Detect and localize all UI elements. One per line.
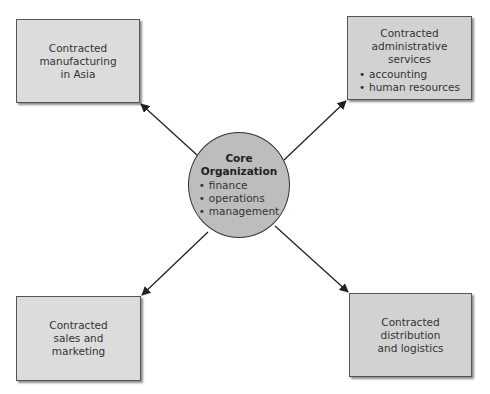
node-manufacturing: Contracted manufacturing in Asia: [16, 19, 140, 103]
node-administrative-label: Contracted administrative services: [372, 27, 448, 66]
core-organization-title: Core Organization: [201, 152, 277, 178]
node-distribution: Contracted distribution and logistics: [349, 293, 472, 377]
list-item: human resources: [359, 81, 460, 94]
arrow-to-manufacturing: [141, 104, 197, 155]
list-item: accounting: [359, 68, 460, 81]
node-distribution-label: Contracted distribution and logistics: [378, 316, 444, 355]
arrow-to-distribution: [275, 226, 348, 292]
core-functions-list: finance operations management: [199, 179, 279, 218]
node-sales-marketing-label: Contracted sales and marketing: [49, 319, 107, 358]
node-administrative: Contracted administrative services accou…: [347, 16, 472, 100]
node-manufacturing-label: Contracted manufacturing in Asia: [39, 42, 116, 81]
list-item: operations: [199, 192, 279, 205]
core-organization-circle: Core Organization finance operations man…: [188, 132, 290, 238]
arrow-to-administrative: [284, 101, 346, 160]
list-item: management: [199, 205, 279, 218]
administrative-services-list: accounting human resources: [359, 68, 460, 94]
organization-diagram: Contracted manufacturing in Asia Contrac…: [0, 0, 490, 394]
list-item: finance: [199, 179, 279, 192]
arrow-to-sales: [142, 232, 208, 295]
node-sales-marketing: Contracted sales and marketing: [16, 296, 141, 381]
